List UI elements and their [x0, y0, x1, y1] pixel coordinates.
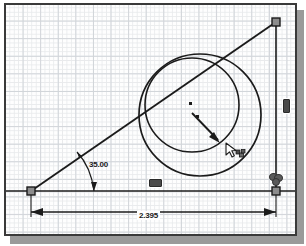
angle-dimension-arrowhead-bottom [91, 182, 97, 191]
vertical-relation-icon[interactable] [283, 99, 290, 113]
linear-dimension-arrowhead-left [31, 208, 43, 216]
coincident-relation-icon[interactable] [269, 173, 283, 187]
sketch-geometry[interactable] [6, 5, 295, 234]
sketch-canvas[interactable]: 35.00 2.395 [4, 3, 297, 236]
linear-dimension-value[interactable]: 2.395 [137, 211, 160, 220]
horizontal-relation-icon[interactable] [149, 179, 162, 187]
bottom-right-endpoint-handle[interactable] [272, 187, 280, 195]
top-right-endpoint-handle[interactable] [272, 18, 280, 26]
angle-dimension-value[interactable]: 35.00 [89, 160, 108, 169]
linear-dimension-arrowhead-right [264, 208, 276, 216]
outer-circle-center-point[interactable] [189, 102, 192, 105]
circle-drag-cursor-icon [225, 142, 247, 162]
cad-sketch-window: 35.00 2.395 [0, 0, 306, 246]
left-endpoint-handle[interactable] [27, 187, 35, 195]
